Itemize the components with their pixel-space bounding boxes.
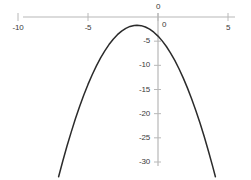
x-tick-label: -5 xyxy=(85,24,92,32)
origin-label: 0 xyxy=(162,21,166,29)
x-tick-label: 5 xyxy=(226,24,230,32)
y-tick-label: -15 xyxy=(130,86,150,94)
parabola-curve xyxy=(59,25,216,177)
chart-container: -10-5050 -5-10-15-20-25-30 xyxy=(0,0,251,180)
y-tick-label: -10 xyxy=(130,61,150,69)
y-tick-label: -20 xyxy=(130,110,150,118)
x-tick-label: 0 xyxy=(156,3,160,11)
chart-plot-area xyxy=(0,0,251,180)
axis-group xyxy=(23,13,235,166)
x-tick-label: -10 xyxy=(13,24,24,32)
y-tick-label: -5 xyxy=(130,37,150,45)
y-tick-label: -25 xyxy=(130,134,150,142)
y-tick-label: -30 xyxy=(130,158,150,166)
